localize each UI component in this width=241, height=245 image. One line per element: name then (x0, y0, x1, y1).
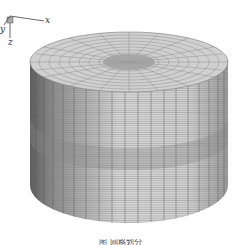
x-axis-label: x (45, 15, 50, 25)
axis-triad-icon (4, 16, 44, 38)
y-axis-label: y (0, 24, 5, 34)
z-axis-label: z (8, 37, 13, 47)
mesh-figure: x y z 图 网格划分 (0, 0, 241, 245)
figure-caption: 图 网格划分 (0, 239, 241, 245)
cylinder-mesh (0, 0, 241, 245)
